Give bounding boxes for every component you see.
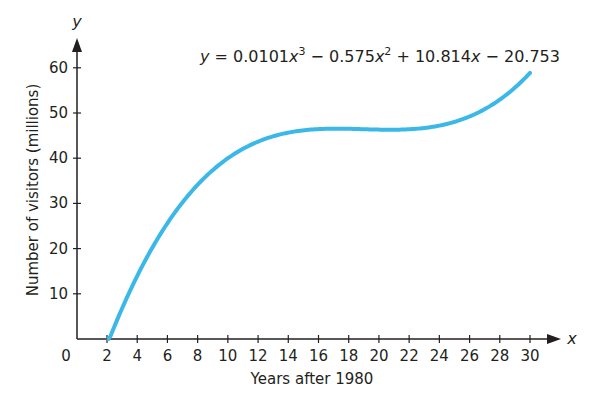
x-tick-label: 26 [460, 347, 479, 365]
eq-y: y [199, 47, 210, 66]
y-axis-variable: y [71, 12, 82, 31]
y-tick-label: 30 [49, 194, 68, 212]
x-tick-label: 6 [163, 347, 173, 365]
y-axis-title: Number of visitors (millions) [24, 84, 42, 297]
x-tick-label: 4 [132, 347, 142, 365]
y-tick-label: 40 [49, 149, 68, 167]
y-ticks: 102030405060 [49, 59, 81, 303]
eq-exp: 3 [299, 45, 306, 58]
axes [72, 38, 561, 344]
y-axis-arrow-icon [72, 38, 82, 52]
x-tick-label: 24 [430, 347, 449, 365]
origin-label: 0 [61, 347, 71, 365]
x-tick-label: 30 [520, 347, 539, 365]
x-tick-label: 16 [309, 347, 328, 365]
y-tick-label: 10 [49, 285, 68, 303]
x-tick-label: 22 [400, 347, 419, 365]
x-tick-label: 12 [249, 347, 268, 365]
eq-part: − 0.575 [306, 47, 375, 66]
x-axis-title: Years after 1980 [250, 370, 374, 388]
x-tick-label: 8 [193, 347, 203, 365]
eq-x: x [470, 47, 481, 66]
x-tick-label: 14 [279, 347, 298, 365]
x-tick-label: 18 [339, 347, 358, 365]
x-tick-label: 10 [218, 347, 237, 365]
eq-part: = 0.0101 [209, 47, 289, 66]
x-tick-label: 20 [369, 347, 388, 365]
x-tick-label: 2 [102, 347, 112, 365]
y-tick-label: 50 [49, 104, 68, 122]
y-tick-label: 20 [49, 240, 68, 258]
equation-label: y = 0.0101x3 − 0.575x2 + 10.814x − 20.75… [199, 45, 560, 66]
eq-x: x [374, 47, 385, 66]
chart: 24681012141618202224262830 102030405060 … [0, 0, 596, 414]
eq-exp: 2 [384, 45, 391, 58]
x-axis-variable: x [566, 329, 577, 348]
model-curve [109, 73, 530, 339]
eq-x: x [288, 47, 299, 66]
y-tick-label: 60 [49, 59, 68, 77]
eq-part: − 20.753 [480, 47, 560, 66]
x-tick-label: 28 [490, 347, 509, 365]
x-axis-arrow-icon [547, 334, 561, 344]
eq-part: + 10.814 [391, 47, 471, 66]
